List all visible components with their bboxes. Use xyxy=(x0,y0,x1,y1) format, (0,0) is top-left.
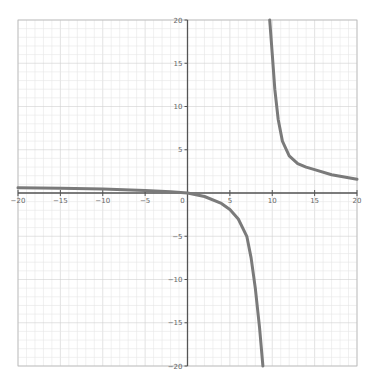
x-tick-label: −15 xyxy=(53,197,68,205)
x-tick-label: 0 xyxy=(180,197,184,205)
y-tick-label: 10 xyxy=(174,103,183,111)
y-tick-label: 20 xyxy=(174,17,183,25)
y-tick-label: −10 xyxy=(168,276,183,284)
x-tick-label: −20 xyxy=(11,197,26,205)
function-graph: −20−15−10−505101520−20−15−10−55101520 xyxy=(0,0,375,385)
curve-right-branch xyxy=(270,20,357,179)
x-tick-label: −5 xyxy=(140,197,150,205)
x-tick-label: −10 xyxy=(95,197,110,205)
x-tick-label: 5 xyxy=(228,197,232,205)
y-tick-label: −20 xyxy=(168,363,183,371)
y-tick-label: 5 xyxy=(178,146,182,154)
x-tick-label: 10 xyxy=(268,197,277,205)
y-tick-label: −15 xyxy=(168,319,183,327)
y-tick-label: 15 xyxy=(174,60,183,68)
curve-left-branch xyxy=(18,188,263,366)
x-tick-label: 20 xyxy=(353,197,362,205)
x-tick-label: 15 xyxy=(310,197,319,205)
y-tick-label: −5 xyxy=(172,233,182,241)
